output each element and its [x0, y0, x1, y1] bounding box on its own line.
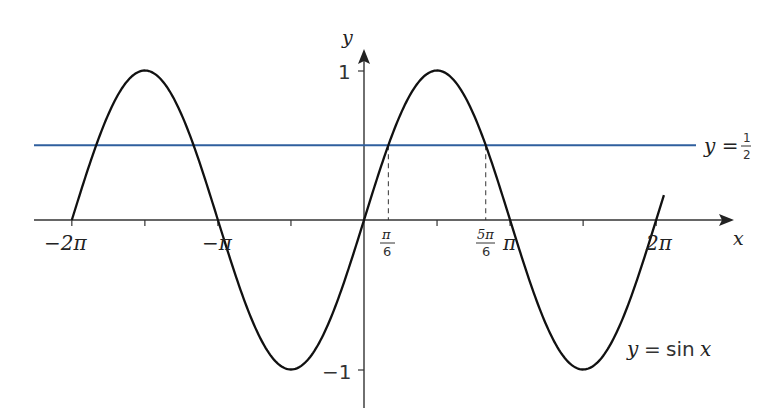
x-tick-label-neg-pi: −π — [202, 231, 233, 255]
svg-text:5π: 5π — [477, 227, 494, 242]
svg-text:x: x — [700, 337, 711, 361]
x-tick-label-pi: π — [502, 231, 517, 255]
svg-text:y: y — [626, 337, 639, 361]
svg-text:6: 6 — [482, 244, 490, 259]
svg-text:sin: sin — [666, 337, 695, 361]
half-line-label: y = 1 2 — [703, 131, 751, 162]
y-tick-label-neg1: −1 — [322, 360, 351, 384]
svg-text:2: 2 — [743, 148, 751, 162]
svg-text:π: π — [381, 227, 391, 242]
sine-curve-label: y = sin x — [626, 337, 711, 361]
svg-text:1: 1 — [743, 131, 751, 145]
y-tick-label-1: 1 — [338, 60, 351, 84]
x-tick-label-2pi: 2π — [645, 231, 673, 255]
svg-text:=: = — [644, 337, 661, 361]
sine-graph: y x 1 −1 −2π −π π 6 5π 6 π 2π y = 1 2 y … — [0, 0, 776, 419]
x-tick-label-neg-2pi: −2π — [44, 231, 87, 255]
x-tick-label-pi-over-6: π 6 — [380, 227, 395, 259]
x-tick-label-5pi-over-6: 5π 6 — [476, 227, 495, 259]
x-axis-label: x — [733, 227, 744, 249]
y-axis-label: y — [341, 26, 353, 48]
svg-text:6: 6 — [383, 244, 391, 259]
svg-text:y =: y = — [703, 134, 738, 158]
